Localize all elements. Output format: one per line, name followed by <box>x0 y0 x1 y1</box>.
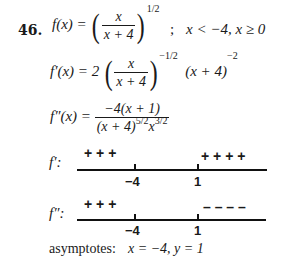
fp-tail: (x + 4) <box>185 63 227 79</box>
f-definition: f(x) = (xx + 4)1/2 <box>52 9 160 43</box>
fpp-tick-label-1: 1 <box>194 223 201 238</box>
f-fraction: xx + 4 <box>102 9 136 43</box>
fpp-tick-1 <box>197 214 199 219</box>
fp-tail-exponent: −2 <box>227 50 238 61</box>
f-prime-definition: f′(x) = 2 (xx + 4)−1/2 (x + 4)−2 <box>50 56 238 90</box>
left-paren: ( <box>92 9 100 43</box>
fpp-number-line <box>77 219 266 221</box>
asymptotes-value: x = −4, y = 1 <box>128 241 204 257</box>
fp-exponent: −1/2 <box>159 50 177 61</box>
fp-fraction: xx + 4 <box>114 56 148 90</box>
fpp-right-signs: – – – – <box>203 199 246 215</box>
right-paren: ) <box>137 9 145 43</box>
fp-tick-1 <box>197 164 199 169</box>
fp-chart-label: f′: <box>49 154 61 171</box>
fp-number-line <box>77 169 267 171</box>
domain: x < −4, x ≥ 0 <box>186 21 265 38</box>
fpp-tick-label-minus4: −4 <box>125 223 140 238</box>
f-double-prime-definition: f″(x) = −4(x + 1) (x + 4)5/2x3/2 <box>50 101 169 135</box>
fpp-fraction: −4(x + 1) (x + 4)5/2x3/2 <box>95 101 170 135</box>
right-paren: ) <box>150 56 158 90</box>
fpp-chart-label: f″: <box>49 205 64 222</box>
fpp-left-signs: + + + <box>84 196 116 212</box>
fp-tick-label-minus4: −4 <box>125 174 140 189</box>
f-lhs: f(x) = <box>52 16 87 32</box>
fp-tick-minus4 <box>134 164 136 169</box>
domain-separator: ; <box>170 21 174 38</box>
fpp-tick-minus4 <box>134 214 136 219</box>
left-paren: ( <box>105 56 113 90</box>
fp-left-signs: + + + <box>84 145 116 161</box>
f-exponent: 1/2 <box>147 3 160 14</box>
fp-tick-label-1: 1 <box>194 174 201 189</box>
fp-right-signs: + + + + <box>201 148 245 164</box>
problem-number: 46. <box>18 22 42 38</box>
asymptotes-label: asymptotes: <box>49 241 116 257</box>
